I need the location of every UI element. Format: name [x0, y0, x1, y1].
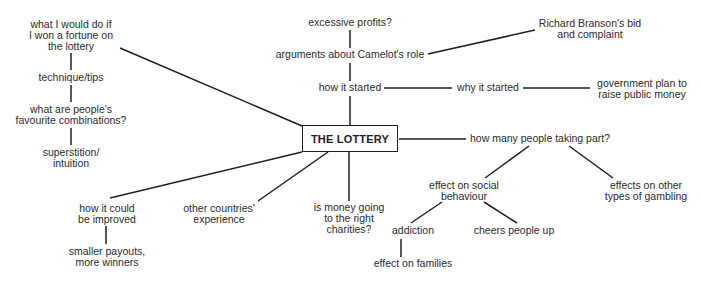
node-other-gambling: effects on other types of gambling	[605, 180, 687, 202]
edge-how-many-social	[485, 146, 529, 178]
node-text-line: experience	[183, 214, 254, 225]
node-how-many-people: how many people taking part?	[470, 133, 610, 144]
central-node-the-lottery: THE LOTTERY	[302, 125, 398, 152]
node-camelot-role: arguments about Camelot's role	[276, 49, 425, 60]
node-text-line: technique/tips	[39, 72, 104, 83]
node-how-improved: how it could be improved	[78, 203, 136, 225]
node-won-fortune: what I would do if I won a fortune on th…	[29, 19, 113, 52]
node-charities: is money going to the right charities?	[314, 202, 385, 235]
node-text-line: cheers people up	[474, 225, 555, 236]
node-text-line: effect on families	[374, 258, 453, 269]
edge-social-cheers	[484, 202, 517, 223]
node-technique-tips: technique/tips	[39, 72, 104, 83]
edge-center-won-fortune	[120, 48, 302, 126]
node-cheers-people-up: cheers people up	[474, 225, 555, 236]
node-text-line: charities?	[314, 224, 385, 235]
node-text-line: raise public money	[597, 89, 687, 100]
node-government-plan: government plan to raise public money	[597, 78, 687, 100]
node-why-it-started: why it started	[457, 82, 519, 93]
node-text-line: why it started	[457, 82, 519, 93]
node-smaller-payouts: smaller payouts, more winners	[69, 246, 145, 268]
edge-camelot-branson	[428, 30, 535, 54]
node-text-line: excessive profits?	[308, 17, 391, 28]
node-text-line: arguments about Camelot's role	[276, 49, 425, 60]
edge-how-many-other-gambling	[569, 146, 613, 178]
mind-map-diagram: THE LOTTERY excessive profits? arguments…	[0, 0, 701, 282]
node-text-line: the lottery	[29, 41, 113, 52]
node-social-behaviour: effect on social behaviour	[429, 180, 499, 202]
node-text-line: addiction	[392, 225, 434, 236]
node-text-line: types of gambling	[605, 191, 687, 202]
node-text-line: be improved	[78, 214, 136, 225]
node-text-line: how many people taking part?	[470, 133, 610, 144]
node-how-it-started: how it started	[319, 82, 381, 93]
node-addiction: addiction	[392, 225, 434, 236]
node-text-line: favourite combinations?	[16, 115, 127, 126]
node-text-line: more winners	[69, 257, 145, 268]
node-superstition: superstition/ intuition	[43, 147, 100, 169]
node-branson: Richard Branson's bid and complaint	[539, 18, 641, 40]
node-other-countries: other countries' experience	[183, 203, 254, 225]
central-node-label: THE LOTTERY	[311, 133, 389, 145]
node-text-line: behaviour	[429, 191, 499, 202]
node-text-line: intuition	[43, 158, 100, 169]
node-text-line: and complaint	[539, 29, 641, 40]
node-favourite-combinations: what are people's favourite combinations…	[16, 104, 127, 126]
node-effect-on-families: effect on families	[374, 258, 453, 269]
node-text-line: how it started	[319, 82, 381, 93]
node-excessive-profits: excessive profits?	[308, 17, 391, 28]
edge-social-addiction	[411, 202, 442, 223]
